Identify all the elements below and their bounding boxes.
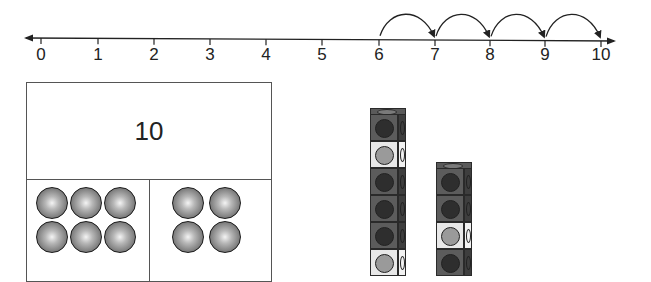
cube-dark — [370, 222, 398, 249]
cube-side — [464, 168, 472, 195]
cube-side-ring-icon — [466, 202, 471, 216]
tick-label: 5 — [317, 46, 326, 63]
cube-side-ring-icon — [400, 256, 405, 270]
cube-side-ring-icon — [400, 175, 405, 189]
counter-icon — [70, 187, 102, 219]
axis-line — [26, 38, 614, 41]
tick-label: 10 — [592, 46, 611, 63]
arrow-left-icon — [24, 35, 33, 42]
counter-icon — [209, 221, 241, 253]
tick-label: 7 — [430, 46, 439, 63]
cube-side-ring-icon — [466, 175, 471, 189]
cube-dot-icon — [375, 146, 394, 165]
arrow-right-icon — [607, 38, 616, 45]
cube-side — [398, 114, 406, 141]
cube-dot-icon — [441, 173, 460, 192]
cube-dark — [370, 195, 398, 222]
counter-icon — [172, 187, 204, 219]
tick-label: 9 — [540, 46, 549, 63]
whole-value: 10 — [135, 116, 164, 147]
cube-side — [464, 222, 472, 249]
cube-dark — [436, 249, 464, 276]
cube-dark — [370, 114, 398, 141]
number-line-jumps — [380, 14, 600, 37]
cube-side — [398, 222, 406, 249]
cube-dark — [436, 168, 464, 195]
cube-side-ring-icon — [400, 148, 405, 162]
cube-dot-icon — [375, 227, 394, 246]
cube-side-ring-icon — [400, 121, 405, 135]
cube-side — [398, 141, 406, 168]
counter-group-right — [172, 187, 241, 253]
tick-label: 2 — [149, 46, 158, 63]
number-bond-part-left — [27, 179, 150, 281]
cube-light — [370, 141, 398, 168]
tick-label: 6 — [374, 46, 383, 63]
cube-side — [398, 168, 406, 195]
tick-label: 3 — [205, 46, 214, 63]
cube-dot-icon — [375, 119, 394, 138]
cube-dot-icon — [375, 200, 394, 219]
cube-side-ring-icon — [466, 256, 471, 270]
cube-side-ring-icon — [466, 229, 471, 243]
counter-icon — [36, 187, 68, 219]
cube-side — [398, 195, 406, 222]
number-bond: 10 — [26, 82, 272, 282]
jump-arrow-icon — [546, 14, 600, 36]
counter-icon — [172, 221, 204, 253]
tick-label: 8 — [485, 46, 494, 63]
counter-icon — [36, 221, 68, 253]
tick-label: 1 — [93, 46, 102, 63]
counter-icon — [104, 221, 136, 253]
cube-dot-icon — [441, 227, 460, 246]
cube-dot-icon — [375, 254, 394, 273]
tick-label: 0 — [36, 46, 45, 63]
jump-arrow-icon — [380, 14, 434, 36]
jump-arrow-icon — [436, 14, 489, 36]
counter-icon — [104, 187, 136, 219]
cube-dark — [370, 168, 398, 195]
cube-dot-icon — [375, 173, 394, 192]
counter-icon — [209, 187, 241, 219]
cube-side — [464, 249, 472, 276]
cube-light — [370, 249, 398, 276]
number-bond-part-right — [149, 179, 271, 281]
cube-side — [464, 195, 472, 222]
cube-light — [436, 222, 464, 249]
cube-side-ring-icon — [400, 229, 405, 243]
tick-label: 4 — [261, 46, 270, 63]
cube-dot-icon — [441, 254, 460, 273]
cube-dark — [436, 195, 464, 222]
counter-group-left — [36, 187, 136, 253]
cube-side-ring-icon — [400, 202, 405, 216]
number-bond-whole: 10 — [27, 83, 271, 180]
jump-arrow-icon — [491, 14, 544, 36]
counter-icon — [70, 221, 102, 253]
cube-side — [398, 249, 406, 276]
cube-dot-icon — [441, 200, 460, 219]
